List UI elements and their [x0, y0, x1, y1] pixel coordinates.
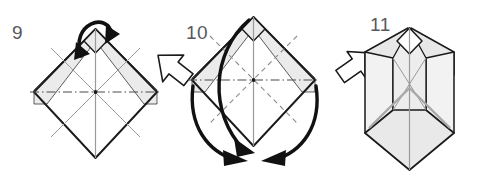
- step-10-sweep-arrow-left-path: [192, 86, 236, 160]
- step-10-sweep-arrowhead-inner: [234, 138, 255, 157]
- step-9-figure: [0, 0, 170, 183]
- step-10-sweep-arrowhead-right: [261, 150, 286, 166]
- step-10-center-point: [252, 78, 256, 82]
- step-10-figure: [160, 0, 345, 183]
- step-10-panel: 10: [160, 0, 345, 183]
- step-10-sweep-arrow-right-path: [274, 86, 317, 160]
- step-11-figure: [335, 0, 504, 183]
- step-11-panel: 11: [335, 0, 504, 183]
- step-9-fold-arrowhead-right: [105, 25, 120, 44]
- step-9-center-point: [94, 90, 98, 94]
- step-9-panel: 9: [0, 0, 170, 183]
- origami-diagram-sheet: 9 10: [0, 0, 504, 183]
